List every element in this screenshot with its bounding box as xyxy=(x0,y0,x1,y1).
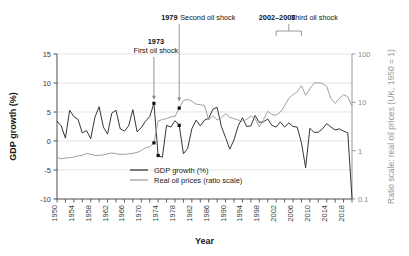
xtick-label-2002: 2002 xyxy=(269,205,278,222)
ytick-label--5: -5 xyxy=(44,166,51,175)
ytick-right-label-100: 100 xyxy=(358,50,371,59)
ytick-label-5: 5 xyxy=(47,108,51,117)
ytick-right-label-1: 1 xyxy=(358,147,362,156)
annotation-1973-text: First oil shock xyxy=(134,46,179,55)
ytick-right-label-10: 10 xyxy=(358,98,366,107)
legend-label-0: GDP growth (%) xyxy=(154,166,209,175)
xtick-label-1982: 1982 xyxy=(185,205,194,222)
gdp-oil-price-chart: -10-50510150.111010019501954195819621966… xyxy=(0,0,409,256)
annotation-bracket xyxy=(276,31,301,36)
annotation-1973-year: 1973 xyxy=(148,37,164,46)
xtick-label-1958: 1958 xyxy=(84,205,93,222)
x-axis-title: Year xyxy=(195,236,215,246)
xtick-label-1986: 1986 xyxy=(202,205,211,222)
xtick-label-1998: 1998 xyxy=(252,205,261,222)
xtick-label-1994: 1994 xyxy=(235,205,244,222)
xtick-label-2010: 2010 xyxy=(303,205,312,222)
data-marker-oil-1979 xyxy=(178,106,181,109)
data-marker-oil-1973 xyxy=(152,141,155,144)
xtick-label-1990: 1990 xyxy=(219,205,228,222)
xtick-label-2014: 2014 xyxy=(320,205,329,222)
xtick-label-1962: 1962 xyxy=(101,205,110,222)
xtick-label-2006: 2006 xyxy=(286,205,295,222)
xtick-label-1978: 1978 xyxy=(168,205,177,222)
ytick-label-0: 0 xyxy=(47,137,51,146)
xtick-label-2018: 2018 xyxy=(337,205,346,222)
y-axis-title: GDP growth (%) xyxy=(8,92,18,160)
ytick-label-15: 15 xyxy=(43,50,51,59)
annotation-1973-arrowhead xyxy=(152,96,156,100)
xtick-label-1950: 1950 xyxy=(50,205,59,222)
annotation-2002-2008-text: Third oil shock xyxy=(291,13,338,22)
chart-container: -10-50510150.111010019501954195819621966… xyxy=(0,0,409,256)
data-marker-gdp-1974 xyxy=(157,154,160,157)
data-marker-gdp-1973 xyxy=(152,102,155,105)
legend-label-1: Real oil prices (ratio scale) xyxy=(154,176,243,185)
data-marker-gdp-1979 xyxy=(178,124,181,127)
xtick-label-1970: 1970 xyxy=(134,205,143,222)
annotation-1979-year: 1979 xyxy=(161,13,177,22)
ytick-label-10: 10 xyxy=(43,79,51,88)
ytick-label--10: -10 xyxy=(40,195,51,204)
annotation-1979-text: Second oil shock xyxy=(180,13,236,22)
xtick-label-1966: 1966 xyxy=(117,205,126,222)
annotation-1979-arrowhead xyxy=(177,98,181,102)
ytick-right-label-0.1: 0.1 xyxy=(358,195,368,204)
right-axis-title: Ratio scale: real oil prices (UK, 1950 =… xyxy=(386,49,396,204)
xtick-label-1974: 1974 xyxy=(151,205,160,222)
xtick-label-1954: 1954 xyxy=(67,205,76,222)
